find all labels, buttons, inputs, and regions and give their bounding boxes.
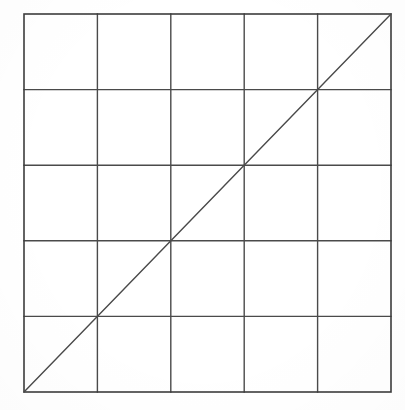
- grid-figure: Square grid with diagonal A square divid…: [0, 0, 405, 410]
- figure-canvas: Square grid with diagonal A square divid…: [0, 0, 405, 410]
